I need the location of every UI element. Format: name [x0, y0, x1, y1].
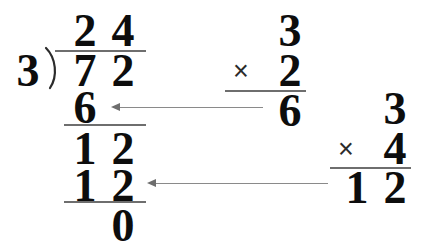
divisor-digit: 3: [13, 48, 43, 94]
mult1-product: 6: [275, 88, 305, 134]
long-division-worksheet: 2 4 3 7 2 6 1 2 1 2 0 3 × 2 6 3 × 4 1 2: [0, 0, 425, 251]
connector-arrow-2-line: [154, 183, 328, 184]
dividend-digit-ones: 2: [108, 48, 138, 94]
mult2-product-digit-ones: 2: [380, 165, 410, 211]
mult1-times-icon: ×: [228, 58, 254, 85]
connector-arrow-2-head-icon: [147, 179, 156, 187]
connector-arrow-1-line: [118, 107, 263, 108]
mult2-times-icon: ×: [333, 136, 359, 163]
final-remainder-digit: 0: [108, 203, 138, 249]
mult2-product-digit-tens: 1: [342, 165, 372, 211]
connector-arrow-1-head-icon: [111, 103, 120, 111]
division-bracket-icon: [44, 46, 64, 90]
